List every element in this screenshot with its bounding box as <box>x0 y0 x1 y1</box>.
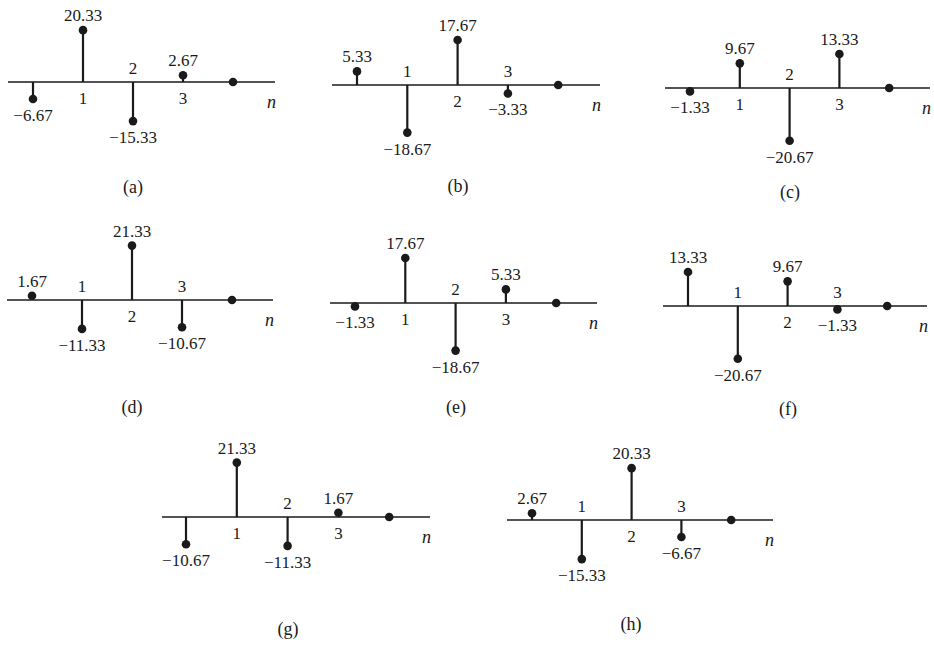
stem-marker-dot <box>351 302 360 311</box>
value-label: 2.67 <box>168 51 198 70</box>
value-label: −20.67 <box>714 366 762 385</box>
index-label: 2 <box>451 280 460 299</box>
value-label: 21.33 <box>218 439 256 458</box>
index-label: 3 <box>833 283 842 302</box>
index-label: 2 <box>627 527 636 546</box>
stem-marker-dot <box>451 346 460 355</box>
stem-plot-panel-b: n5.33−18.67117.672−3.333(b) <box>332 16 601 197</box>
stem-marker-dot <box>128 241 137 250</box>
axis-label-n: n <box>919 316 928 336</box>
stem-marker-dot <box>504 89 513 98</box>
stem-marker-dot <box>835 50 844 59</box>
stem-plot-panel-g: n−10.6721.331−11.3321.673(g) <box>162 439 431 640</box>
value-label: −10.67 <box>158 334 206 353</box>
index-label: 3 <box>677 497 686 516</box>
value-label: 9.67 <box>773 257 803 276</box>
panel-caption-c: (c) <box>780 182 800 203</box>
stem-marker-dot <box>885 84 894 93</box>
index-label: 2 <box>129 59 138 78</box>
index-label: 1 <box>78 277 87 296</box>
value-label: 13.33 <box>820 30 858 49</box>
index-label: 1 <box>233 524 242 543</box>
value-label: 9.67 <box>725 39 755 58</box>
index-label: 3 <box>835 95 844 114</box>
stem-plot-panel-d: n1.67−11.33121.332−10.673(d) <box>7 222 274 418</box>
stem-plot-figure: n−6.6720.331−15.3322.673(a)n5.33−18.6711… <box>0 0 934 645</box>
value-label: −6.67 <box>662 544 702 563</box>
stem-marker-dot <box>229 78 238 87</box>
index-label: 3 <box>502 310 511 329</box>
index-label: 3 <box>178 277 187 296</box>
stem-marker-dot <box>334 508 343 517</box>
stem-marker-dot <box>833 305 842 314</box>
stem-marker-dot <box>403 128 412 137</box>
value-label: −15.33 <box>109 128 157 147</box>
index-label: 1 <box>734 283 743 302</box>
index-label: 1 <box>401 310 410 329</box>
value-label: −6.67 <box>13 106 53 125</box>
value-label: 1.67 <box>324 489 354 508</box>
value-label: −15.33 <box>558 566 606 585</box>
value-label: −18.67 <box>383 140 431 159</box>
value-label: −10.67 <box>162 551 210 570</box>
stem-marker-dot <box>677 533 686 542</box>
stem-marker-dot <box>233 458 242 467</box>
value-label: −20.67 <box>766 148 814 167</box>
panel-caption-a: (a) <box>123 177 143 198</box>
stem-plot-panel-a: n−6.6720.331−15.3322.673(a) <box>8 6 276 198</box>
stem-marker-dot <box>353 67 362 76</box>
axis-label-n: n <box>922 98 931 118</box>
stem-marker-dot <box>727 516 736 525</box>
value-label: 5.33 <box>491 265 521 284</box>
value-label: 1.67 <box>17 272 47 291</box>
value-label: 2.67 <box>517 489 547 508</box>
value-label: 20.33 <box>612 444 650 463</box>
stem-marker-dot <box>785 136 794 145</box>
stem-marker-dot <box>552 299 561 308</box>
value-label: 17.67 <box>438 16 477 35</box>
stem-marker-dot <box>129 117 138 126</box>
stem-marker-dot <box>578 555 587 564</box>
axis-label-n: n <box>765 530 774 550</box>
panel-caption-f: (f) <box>779 399 797 420</box>
index-label: 2 <box>128 307 137 326</box>
panel-caption-b: (b) <box>448 176 469 197</box>
axis-label-n: n <box>422 527 431 547</box>
index-label: 1 <box>403 62 412 81</box>
stem-marker-dot <box>78 325 87 334</box>
value-label: 5.33 <box>342 47 372 66</box>
stem-plot-panel-c: n−1.339.671−20.67213.333(c) <box>665 30 931 203</box>
index-label: 2 <box>783 313 792 332</box>
stem-marker-dot <box>783 277 792 286</box>
index-label: 3 <box>179 89 188 108</box>
stem-marker-dot <box>736 59 745 68</box>
value-label: −1.33 <box>818 316 857 335</box>
index-label: 2 <box>785 65 794 84</box>
stem-marker-dot <box>627 464 636 473</box>
index-label: 1 <box>79 89 88 108</box>
index-label: 2 <box>283 494 292 513</box>
stem-marker-dot <box>29 95 38 104</box>
stem-marker-dot <box>528 509 537 518</box>
panel-caption-d: (d) <box>122 397 143 418</box>
index-label: 3 <box>334 524 343 543</box>
stem-marker-dot <box>401 254 410 263</box>
stem-marker-dot <box>182 540 191 549</box>
value-label: 21.33 <box>113 222 151 241</box>
value-label: 13.33 <box>669 248 707 267</box>
axis-label-n: n <box>265 310 274 330</box>
value-label: −11.33 <box>58 336 105 355</box>
stem-plot-panel-e: n−1.3317.671−18.6725.333(e) <box>330 234 598 418</box>
stem-marker-dot <box>178 323 187 332</box>
stem-marker-dot <box>179 71 188 80</box>
value-label: −1.33 <box>335 313 374 332</box>
axis-label-n: n <box>267 92 276 112</box>
stem-marker-dot <box>684 268 693 277</box>
stem-marker-dot <box>228 296 237 305</box>
value-label: −11.33 <box>264 553 311 572</box>
stem-marker-dot <box>554 81 563 90</box>
value-label: −3.33 <box>488 100 527 119</box>
value-label: −1.33 <box>670 98 709 117</box>
stem-marker-dot <box>502 285 511 294</box>
index-label: 3 <box>504 62 513 81</box>
